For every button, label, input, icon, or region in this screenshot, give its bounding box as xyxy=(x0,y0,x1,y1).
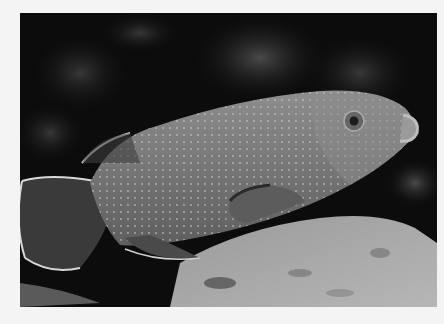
fish-photograph xyxy=(20,13,437,307)
photo-scene xyxy=(20,13,437,307)
